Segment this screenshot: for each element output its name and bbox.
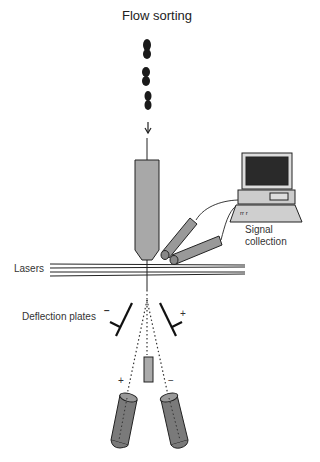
chromosomes xyxy=(142,39,152,110)
deflection-plates xyxy=(110,303,182,336)
diagram-title: Flow sorting xyxy=(122,8,192,23)
signal-detectors xyxy=(161,218,222,265)
signal-label-line1: Signal xyxy=(245,224,273,235)
flow-arrow xyxy=(145,122,151,133)
tube-negative-sign: − xyxy=(168,375,174,386)
plate-positive-sign: + xyxy=(180,308,186,319)
nozzle xyxy=(135,160,159,260)
computer-icon: rr r xyxy=(230,153,302,222)
lasers-label: Lasers xyxy=(14,263,44,274)
plate-negative-sign: − xyxy=(104,305,110,316)
waste-collector xyxy=(144,357,153,382)
signal-label-line2: collection xyxy=(245,236,287,247)
collection-tubes xyxy=(111,391,188,448)
deflection-plates-label: Deflection plates xyxy=(22,311,96,322)
tube-positive-sign: + xyxy=(118,375,124,386)
svg-text:rr r: rr r xyxy=(240,210,248,216)
